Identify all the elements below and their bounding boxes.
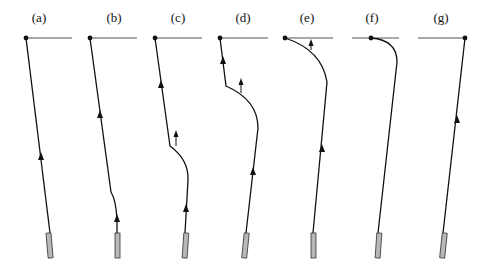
- trajectory-path: [443, 38, 465, 233]
- direction-arrow-icon: [250, 167, 256, 175]
- trajectory-path: [155, 38, 188, 233]
- trajectory-diagram: (a) (b) (c) (d): [0, 0, 485, 271]
- rod: [182, 233, 189, 258]
- trajectory-path: [90, 38, 117, 233]
- panel-d: (d): [218, 10, 268, 258]
- trajectory-path: [26, 38, 50, 233]
- up-arrow-icon: [239, 78, 244, 85]
- panel-e: (e): [283, 10, 333, 258]
- rod: [440, 233, 448, 258]
- rod: [46, 233, 53, 258]
- rod: [115, 233, 120, 258]
- trajectory-path: [220, 38, 258, 233]
- direction-arrow-icon: [38, 152, 44, 160]
- trajectory-path: [371, 38, 397, 233]
- endpoint-dot: [218, 36, 223, 41]
- panel-label-a: (a): [32, 10, 46, 25]
- direction-arrow-icon: [454, 115, 460, 123]
- trajectory-path: [285, 38, 327, 233]
- panel-label-f: (f): [366, 10, 379, 25]
- direction-arrow-icon: [319, 144, 325, 152]
- rod: [311, 233, 316, 258]
- endpoint-dot: [463, 36, 468, 41]
- rod: [375, 233, 382, 258]
- direction-arrow-icon: [183, 204, 189, 212]
- direction-arrow-icon: [97, 110, 103, 118]
- rod: [242, 233, 250, 258]
- panel-label-g: (g): [433, 10, 448, 25]
- up-arrow-icon: [174, 130, 179, 137]
- up-arrow-icon: [309, 39, 314, 46]
- panel-b: (b): [88, 10, 137, 258]
- direction-arrow-icon: [114, 214, 120, 222]
- panel-label-d: (d): [235, 10, 250, 25]
- endpoint-dot: [153, 36, 158, 41]
- panel-label-e: (e): [300, 10, 314, 25]
- endpoint-dot: [369, 36, 374, 41]
- endpoint-dot: [283, 36, 288, 41]
- endpoint-dot: [24, 36, 29, 41]
- direction-arrow-icon: [220, 56, 226, 64]
- panel-g: (g): [418, 10, 467, 258]
- panel-f: (f): [352, 10, 399, 258]
- panel-label-b: (b): [106, 10, 121, 25]
- direction-arrow-icon: [158, 80, 164, 88]
- panel-c: (c): [153, 10, 202, 258]
- endpoint-dot: [88, 36, 93, 41]
- panel-label-c: (c): [171, 10, 185, 25]
- panel-a: (a): [24, 10, 72, 258]
